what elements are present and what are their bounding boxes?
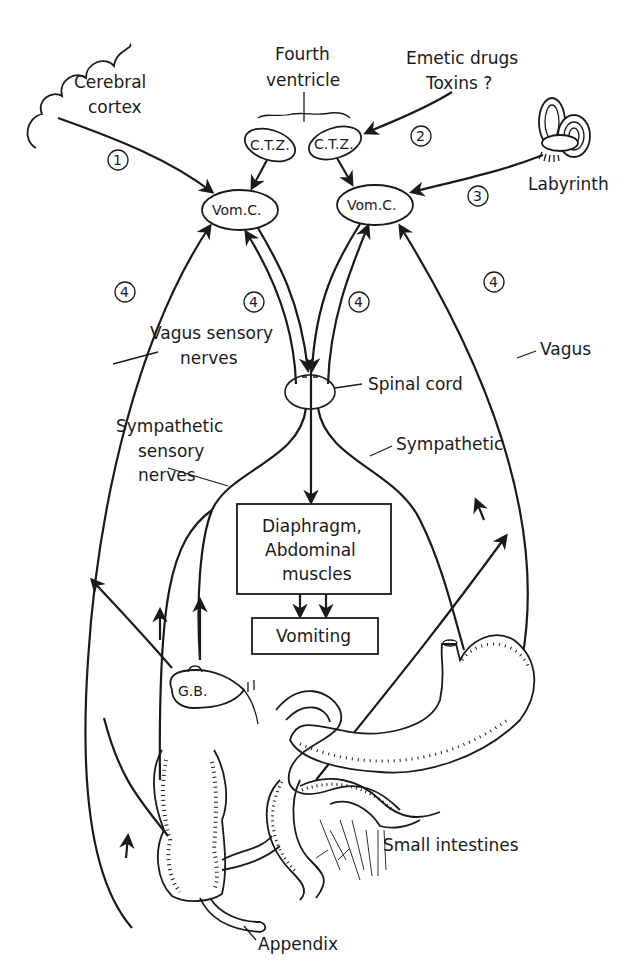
cerebral-cortex-label: Cerebral [74, 72, 146, 92]
effector-label-1: Diaphragm, [262, 516, 362, 536]
effector-label-3: muscles [282, 564, 352, 584]
pathway-1-badge: 1 [108, 150, 128, 170]
colon-sympathetic-nerve [104, 718, 168, 836]
stomach [290, 635, 534, 772]
toxins-label: Toxins ? [425, 73, 492, 93]
sympathetic-sensory-branch [160, 510, 212, 780]
vomc-right-label: Vom.C. [347, 197, 396, 213]
vomiting-center-right: Vom.C. [337, 185, 413, 225]
sympathetic-sensory-label: Sympathetic [116, 416, 223, 436]
labyrinth-icon [539, 98, 590, 162]
vagus-sensory-label-2: nerves [180, 348, 238, 368]
emetic-drugs-label: Emetic drugs [406, 48, 518, 68]
appendix-label: Appendix [258, 934, 338, 954]
small-intestines-label: Small intestines [383, 835, 519, 855]
ctz-to-vomc-right-arrow [337, 158, 352, 184]
vagus-label: Vagus [540, 339, 591, 359]
colon-ascending-arrow [126, 836, 128, 858]
sympathetic-sensory-label-2: sensory [138, 441, 204, 461]
pathway-4-badge-b: 4 [244, 292, 264, 312]
svg-text:1: 1 [113, 152, 122, 168]
svg-text:4: 4 [489, 274, 498, 290]
gall-bladder: G.B. [170, 666, 258, 724]
pathway-4-badge-a: 4 [115, 282, 135, 302]
gall-bladder-label: G.B. [178, 683, 207, 699]
emetic-drugs: Emetic drugs Toxins ? [406, 48, 518, 93]
vomc-left-descending [258, 228, 308, 370]
ctz-to-vomc-left-arrow [252, 160, 267, 188]
pathway-4-badge-d: 4 [484, 272, 504, 292]
fourth-ventricle: Fourth ventricle [258, 44, 350, 122]
ctz-left: C.T.Z. [241, 123, 300, 168]
pathway-2-arrow [366, 92, 452, 133]
labyrinth: Labyrinth [528, 98, 609, 194]
cerebral-cortex-label-2: cortex [88, 97, 142, 117]
ctz-right: C.T.Z. [305, 120, 366, 165]
labyrinth-label: Labyrinth [528, 174, 609, 194]
vomiting-center-left: Vom.C. [202, 190, 278, 230]
diaphragm-abdominal-box: Diaphragm, Abdominal muscles [237, 504, 391, 594]
vomc-right-descending [312, 224, 360, 370]
ctz-right-label: C.T.Z. [314, 136, 354, 152]
vomiting-box: Vomiting [252, 618, 378, 654]
vomiting-reflex-diagram: Cerebral cortex 1 Fourth ventricle C.T.Z… [0, 0, 636, 972]
vomc-left-label: Vom.C. [212, 202, 261, 218]
appendix: Appendix [200, 898, 338, 954]
svg-text:4: 4 [120, 284, 129, 300]
colon [154, 750, 280, 901]
cerebral-cortex: Cerebral cortex [27, 44, 146, 148]
svg-text:3: 3 [473, 188, 482, 204]
svg-text:4: 4 [249, 294, 258, 310]
fourth-ventricle-label: Fourth [275, 44, 330, 64]
effector-label-2: Abdominal [265, 540, 356, 560]
svg-text:2: 2 [416, 128, 425, 144]
diagram-canvas: Cerebral cortex 1 Fourth ventricle C.T.Z… [0, 0, 636, 972]
pathway-2-badge: 2 [411, 126, 431, 146]
vomiting-label: Vomiting [276, 626, 351, 646]
svg-text:4: 4 [354, 294, 363, 310]
vagus-right-arrow [476, 500, 484, 520]
pathway-3-badge: 3 [468, 186, 488, 206]
sympathetic-sensory-label-3: nerves [138, 465, 196, 485]
spinal-cord-label: Spinal cord [368, 374, 463, 394]
pathway-4-badge-c: 4 [349, 292, 369, 312]
vagus-sensory-label: Vagus sensory [150, 323, 273, 343]
sympathetic-label: Sympathetic [396, 434, 503, 454]
cortex-outline-icon [27, 44, 130, 148]
ctz-left-label: C.T.Z. [250, 137, 290, 153]
pathway-1-arrow [58, 118, 212, 192]
fourth-ventricle-label-2: ventricle [266, 70, 340, 90]
